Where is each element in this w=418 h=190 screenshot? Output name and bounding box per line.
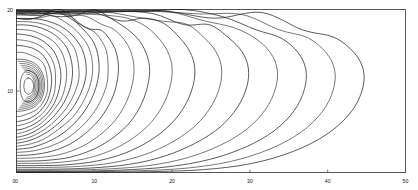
y-tick-label: 20: [7, 7, 13, 13]
contour-plot-figure: 01020304050 01020: [0, 0, 418, 190]
x-tick-label: 10: [91, 178, 97, 184]
x-tick-label: 40: [325, 178, 331, 184]
y-tick-label: 10: [7, 88, 13, 94]
x-tick-label: 30: [247, 178, 253, 184]
plot-canvas: 01020304050 01020: [0, 0, 418, 190]
y-tick-label: 0: [13, 178, 16, 184]
x-tick-label: 0: [15, 178, 18, 184]
x-tick-label: 50: [403, 178, 409, 184]
x-tick-label: 20: [169, 178, 175, 184]
